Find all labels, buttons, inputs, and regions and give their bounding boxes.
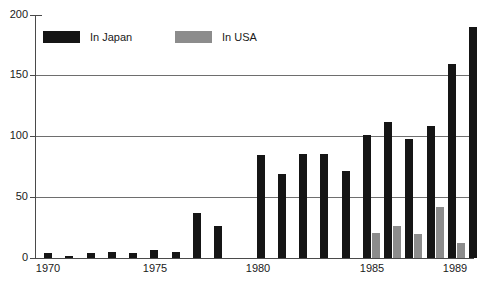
bar-japan	[129, 253, 137, 258]
bar-japan	[363, 135, 371, 258]
bar-group	[405, 15, 426, 258]
bar-usa	[436, 207, 444, 258]
bar-group	[108, 15, 129, 258]
bar-group	[448, 15, 469, 258]
y-tick-label-50: 50	[16, 191, 28, 202]
y-tick-label-100: 100	[10, 130, 28, 141]
bar-group	[257, 15, 278, 258]
bar-group	[44, 15, 65, 258]
bar-group	[363, 15, 384, 258]
x-axis-line	[35, 258, 474, 259]
bar-japan	[214, 226, 222, 258]
bar-japan	[342, 171, 350, 258]
bar-japan	[427, 126, 435, 258]
legend-swatch-usa-icon	[175, 31, 212, 43]
x-tick-label-1980: 1980	[246, 262, 270, 275]
bar-group	[278, 15, 299, 258]
y-tick-label-150: 150	[10, 69, 28, 80]
bar-japan	[44, 253, 52, 258]
bar-usa	[393, 226, 401, 258]
legend-swatch-japan-icon	[43, 31, 80, 43]
bar-japan	[172, 252, 180, 258]
bar-group	[214, 15, 235, 258]
x-tick-label-1985: 1985	[360, 262, 384, 275]
bar-group	[235, 15, 256, 258]
bar-group	[384, 15, 405, 258]
legend-entry-usa: In USA	[175, 29, 257, 45]
x-tick-label-1975: 1975	[143, 262, 167, 275]
x-tick-label-1989: 1989	[443, 262, 467, 275]
bar-group	[129, 15, 150, 258]
bar-japan	[299, 154, 307, 258]
plot-area	[36, 15, 474, 258]
bar-japan	[320, 154, 328, 258]
bar-group	[172, 15, 193, 258]
bar-group	[150, 15, 171, 258]
bar-japan	[257, 155, 265, 258]
bar-japan	[448, 64, 456, 258]
bar-group	[193, 15, 214, 258]
bar-group	[342, 15, 363, 258]
bar-group	[65, 15, 86, 258]
bar-usa	[457, 243, 465, 258]
bar-japan	[193, 213, 201, 258]
bar-japan	[150, 250, 158, 259]
bar-japan	[278, 174, 286, 258]
bar-usa	[414, 234, 422, 258]
bar-group	[299, 15, 320, 258]
legend-label-japan: In Japan	[90, 31, 132, 43]
x-axis-labels: 1970 1975 1980 1985 1989	[0, 262, 475, 280]
bar-japan	[405, 139, 413, 258]
legend-label-usa: In USA	[222, 31, 257, 43]
bar-group	[469, 15, 481, 258]
legend-entry-japan: In Japan	[43, 29, 132, 45]
bar-usa	[372, 233, 380, 259]
bar-japan	[87, 253, 95, 258]
y-tick-mark-0	[30, 258, 36, 259]
bar-japan	[384, 122, 392, 258]
bar-group	[87, 15, 108, 258]
bar-japan	[469, 27, 477, 258]
bar-group	[320, 15, 341, 258]
bar-japan	[108, 252, 116, 258]
x-tick-label-1970: 1970	[36, 262, 60, 275]
y-tick-label-200: 200	[10, 9, 28, 20]
y-axis-labels: 200 150 100 50 0	[0, 0, 28, 284]
bar-japan	[65, 256, 73, 258]
bar-group	[427, 15, 448, 258]
